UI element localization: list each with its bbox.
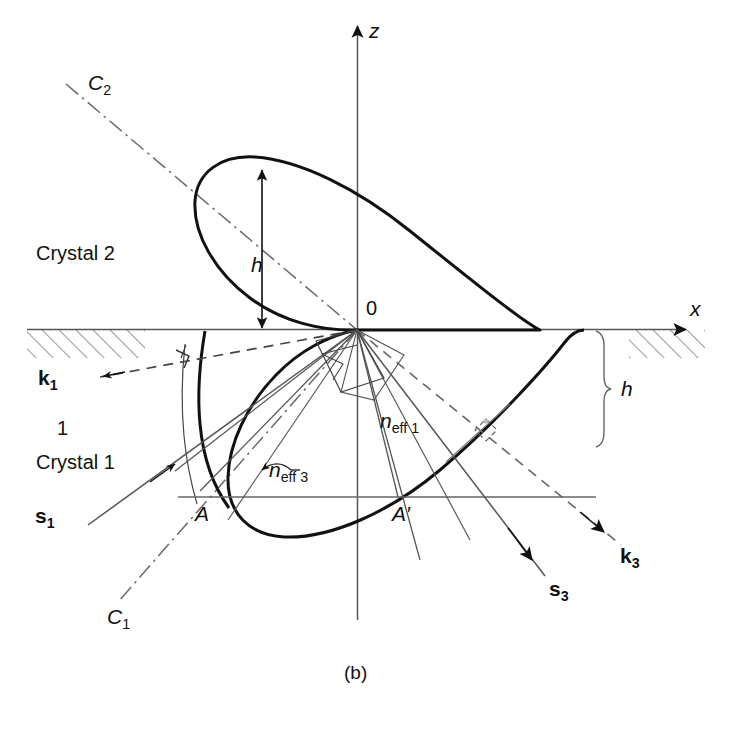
- optic-axis-c1-line: [118, 330, 357, 602]
- height-h-brace-right: [596, 331, 611, 447]
- right-angle-marker-k1: [176, 350, 189, 368]
- index-label-n-eff-1: neff 1: [380, 410, 419, 435]
- vector-k1-symbol: k: [38, 366, 50, 389]
- k1-arrowhead-segment: [103, 372, 125, 377]
- vector-label-s3: s3: [549, 578, 569, 603]
- point-label-A: A: [195, 503, 209, 524]
- vector-k3-symbol: k: [620, 544, 632, 567]
- dimension-label-h-upper: h: [251, 254, 263, 275]
- point-label-A-prime: A′: [392, 503, 410, 524]
- hatch-right: [629, 330, 705, 358]
- n-eff-3-subscript: eff 3: [281, 469, 309, 485]
- k3-arrowhead-segment: [580, 512, 604, 532]
- optic-axis-c2-line: [66, 84, 357, 330]
- index-label-n-eff-3: neff 3: [269, 459, 308, 484]
- region-label-crystal-2: Crystal 2: [36, 243, 115, 263]
- optic-axis-label-c1: C1: [107, 606, 130, 631]
- n-eff-1-radius-outer: [357, 330, 420, 560]
- hatch-left: [27, 330, 145, 358]
- region-number-1: 1: [57, 418, 68, 438]
- vector-k3-subscript: 3: [632, 555, 640, 571]
- vector-s1-subscript: 1: [47, 515, 55, 531]
- n-eff-1-symbol: n: [380, 409, 392, 432]
- vector-s1-symbol: s: [35, 504, 47, 527]
- optic-axis-c1-subscript: 1: [122, 616, 130, 632]
- figure-root: z x 0 Crystal 2 1 Crystal 1 C2 C1 k1 s1 …: [0, 0, 729, 730]
- dimension-label-h-right: h: [621, 378, 633, 399]
- origin-label: 0: [366, 298, 377, 318]
- vector-label-k3: k3: [620, 545, 640, 570]
- s1-arrowhead-segment: [150, 464, 175, 482]
- right-angle-marker-k3-dot: [483, 418, 488, 423]
- n-eff-1-subscript: eff 1: [392, 420, 420, 436]
- vector-k1-subscript: 1: [50, 377, 58, 393]
- region-label-crystal-1: Crystal 1: [36, 452, 115, 472]
- figure-caption: (b): [344, 663, 367, 682]
- axis-label-x: x: [690, 298, 701, 319]
- axis-label-z: z: [369, 20, 380, 41]
- vector-label-s1: s1: [35, 505, 55, 530]
- optic-axis-c1-symbol: C: [107, 605, 122, 628]
- s3-arrowhead-segment: [508, 528, 532, 560]
- vector-s3-symbol: s: [549, 577, 561, 600]
- vector-s3-subscript: 3: [561, 588, 569, 604]
- optic-axis-c2-subscript: 2: [103, 82, 111, 98]
- optic-axis-label-c2: C2: [88, 72, 111, 97]
- vector-label-k1: k1: [38, 367, 58, 392]
- construction-ray-right-tangent: [446, 404, 510, 462]
- optic-axis-c2-symbol: C: [88, 71, 103, 94]
- n-eff-3-symbol: n: [269, 458, 281, 481]
